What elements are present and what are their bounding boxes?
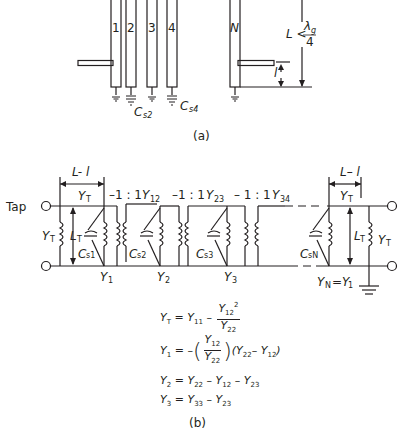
filter-diagram: 1 2 3 4 N C s2 C s4 L < λ g 4 l (a): [0, 0, 402, 438]
resonator-label-2: 2: [127, 21, 135, 35]
svg-text:T: T: [76, 235, 82, 244]
tap-distance-label: l: [274, 66, 278, 80]
ratio-2: –1 : 1: [172, 188, 205, 202]
equation-y2: Y2 = Y22 – Y12 – Y23: [160, 374, 259, 389]
svg-text:s4: s4: [189, 105, 198, 114]
input-tap-line: [78, 61, 113, 66]
resonator-3: [147, 0, 157, 87]
resonator-label-n: N: [230, 21, 239, 35]
svg-text:34: 34: [280, 195, 290, 204]
svg-text:T: T: [49, 235, 55, 244]
right-length-dim: L– l: [340, 165, 361, 179]
cap-label-s2: C: [134, 105, 143, 119]
svg-text:T: T: [385, 239, 391, 248]
equation-yt: YT = Y11 – Y122Y22: [160, 299, 242, 336]
svg-text:λ: λ: [303, 19, 311, 33]
ratio-3: – 1 : 1: [234, 188, 271, 202]
svg-text:s2: s2: [137, 251, 146, 260]
svg-text:T: T: [359, 235, 365, 244]
resonator-n: [230, 0, 240, 87]
tap-label: Tap: [5, 200, 26, 214]
svg-text:N: N: [325, 281, 331, 290]
resonator-label-1: 1: [112, 21, 120, 35]
ratio-1: –1 : 1: [109, 188, 142, 202]
svg-text:s2: s2: [143, 111, 152, 120]
svg-text:23: 23: [214, 195, 224, 204]
svg-text:4: 4: [306, 35, 314, 49]
resonator-2: [126, 0, 136, 87]
cap-label-s4: C: [180, 99, 189, 113]
svg-text:1: 1: [348, 281, 353, 290]
left-length-dim: L- l: [72, 165, 90, 179]
resonator-label-4: 4: [168, 21, 176, 35]
svg-text:T: T: [85, 195, 91, 204]
svg-text:g: g: [311, 26, 316, 35]
ground-icons: [112, 96, 239, 105]
output-tap-line: [238, 61, 274, 66]
svg-text:s1: s1: [86, 251, 95, 260]
svg-text:sN: sN: [308, 251, 318, 260]
svg-text:3: 3: [232, 276, 237, 285]
svg-text:2: 2: [165, 276, 170, 285]
equation-y3: Y3 = Y33 – Y23: [160, 393, 231, 408]
svg-text:T: T: [347, 195, 353, 204]
resonator-1: [111, 0, 121, 87]
svg-text:L: L: [70, 229, 77, 243]
caption-b: (b): [189, 416, 206, 430]
equation-y1: Y1 = –(Y12Y22)(Y22– Y12): [160, 334, 281, 367]
svg-text:12: 12: [150, 195, 160, 204]
caption-a: (a): [193, 129, 210, 143]
svg-text:1: 1: [108, 276, 113, 285]
resonator-label-3: 3: [148, 21, 156, 35]
resonator-4: [167, 0, 177, 87]
svg-text:s3: s3: [204, 251, 213, 260]
